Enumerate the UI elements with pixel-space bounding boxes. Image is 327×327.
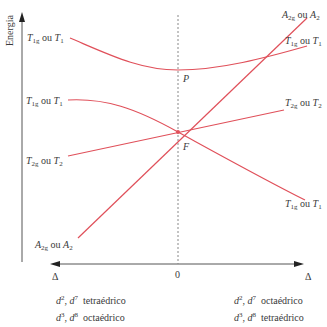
x-axis-left-arrow-icon xyxy=(50,261,60,267)
footer-right-line-1: d2, d7 octaédrico xyxy=(234,294,303,306)
footer-right-line-2: d3, d8 tetraédrico xyxy=(234,311,304,323)
y-axis-arrow-icon xyxy=(19,12,25,22)
label-left-t1g-top: T1g ou T1 xyxy=(27,33,64,45)
label-left-t2g: T2g ou T2 xyxy=(26,156,63,168)
footer-left-line-2: d3, d8 octaédrico xyxy=(56,311,125,323)
x-axis-right-arrow-icon xyxy=(294,261,304,267)
point-p-label: P xyxy=(183,73,189,84)
label-right-a2g: A2g ou A2 xyxy=(282,10,320,22)
label-right-t2g: T2g ou T2 xyxy=(285,98,322,110)
label-left-a2g: A2g ou A2 xyxy=(35,240,73,252)
label-right-t1g-lower: T1g ou T1 xyxy=(285,199,322,211)
label-right-t1g-upper: T1g ou T1 xyxy=(285,36,322,48)
x-axis-left-delta: Δ xyxy=(52,272,58,282)
x-axis-zero: 0 xyxy=(175,270,180,280)
curve-t1g-upper xyxy=(70,38,307,70)
line-t2g xyxy=(68,110,284,156)
footer-left-line-1: d2, d7 tetraédrico xyxy=(56,294,126,306)
label-left-t1g-mid: T1g ou T1 xyxy=(26,96,63,108)
y-axis-title: Energia xyxy=(4,15,15,46)
x-axis-right-delta: Δ xyxy=(305,272,311,282)
crossing-point-f xyxy=(176,130,180,134)
line-a2g xyxy=(78,18,307,238)
point-f-label: F xyxy=(183,141,189,152)
